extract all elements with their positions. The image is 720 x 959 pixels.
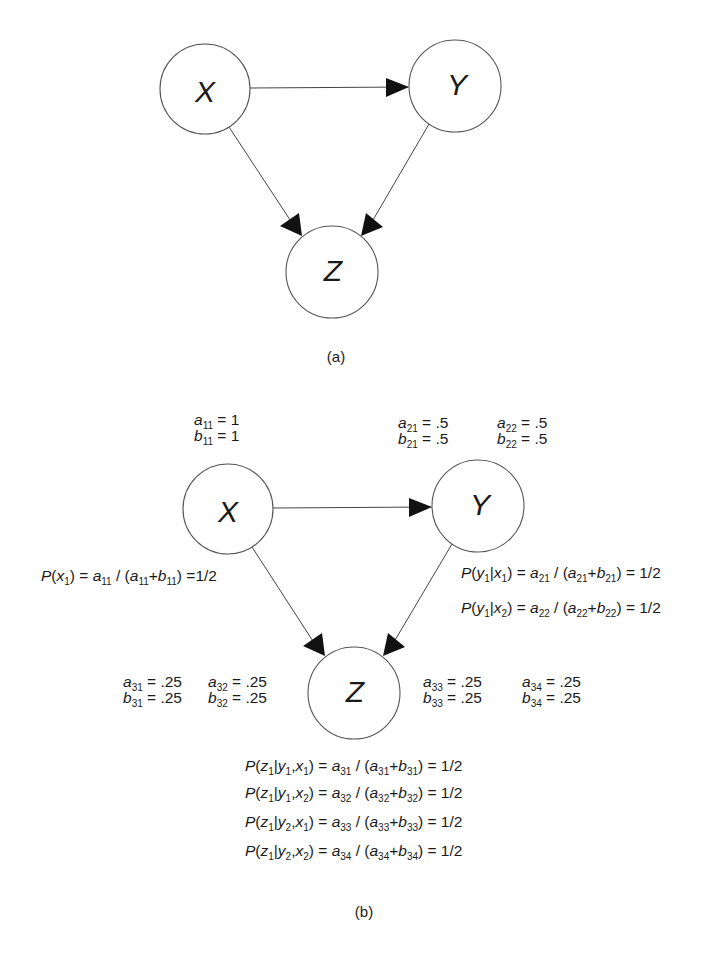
node-z-label: Z xyxy=(323,254,344,287)
param-b34: b34 = .25 xyxy=(522,690,581,706)
arrowhead-icon xyxy=(409,498,432,517)
param-a11: a11 = 1 xyxy=(194,412,239,428)
param-b31: b31 = .25 xyxy=(123,690,182,706)
node-y-label: Y xyxy=(447,68,469,101)
param-a32-value: .25 xyxy=(245,673,267,690)
equation-result: = 1/2 xyxy=(428,842,463,859)
equation-p-y1-given-x2: P(y1|x2) = a22 / (a22+b22) = 1/2 xyxy=(461,600,661,616)
equation-p-z1-given-y2-x2: P(z1|y2,x2) = a34 / (a34+b34) = 1/2 xyxy=(245,843,462,859)
edge-x-to-y xyxy=(250,87,408,88)
equation-result: = 1/2 xyxy=(626,599,661,616)
caption-a: (a) xyxy=(327,348,345,365)
param-b21-value: .5 xyxy=(435,430,448,447)
node-x-label: X xyxy=(194,75,216,108)
param-b21: b21 = .5 xyxy=(398,431,448,447)
edge-y-to-z xyxy=(388,544,452,652)
arrowhead-icon xyxy=(386,78,409,97)
equation-p-x1-result: =1/2 xyxy=(186,567,217,584)
param-a22-value: .5 xyxy=(534,414,547,431)
edge-y-to-z xyxy=(366,124,429,232)
equation-p-z1-given-y1-x1: P(z1|y1,x1) = a31 / (a31+b31) = 1/2 xyxy=(245,758,462,774)
equation-result: = 1/2 xyxy=(428,784,463,801)
param-b32: b32 = .25 xyxy=(208,690,267,706)
equation-p-z1-given-y1-x2: P(z1|y1,x2) = a32 / (a32+b32) = 1/2 xyxy=(245,785,462,801)
equation-p-y1-given-x1: P(y1|x1) = a21 / (a21+b21) = 1/2 xyxy=(461,565,661,581)
caption-b: (b) xyxy=(355,903,373,920)
node-x-label: X xyxy=(217,495,239,528)
equation-p-x1: P(x1) = a11 / (a11+b11) =1/2 xyxy=(41,568,217,584)
equation-result: = 1/2 xyxy=(626,564,661,581)
edge-x-to-z xyxy=(252,547,320,652)
param-a32: a32 = .25 xyxy=(208,674,267,690)
param-a33: a33 = .25 xyxy=(423,674,482,690)
param-b31-value: .25 xyxy=(160,689,182,706)
param-b22-value: .5 xyxy=(534,430,547,447)
param-b34-value: .25 xyxy=(559,689,581,706)
param-b33-value: .25 xyxy=(460,689,482,706)
arrowhead-icon xyxy=(383,633,405,656)
node-z-label: Z xyxy=(345,675,366,708)
param-a31-value: .25 xyxy=(160,673,182,690)
param-a31: a31 = .25 xyxy=(123,674,182,690)
arrowhead-icon xyxy=(303,633,325,656)
node-y-label: Y xyxy=(470,488,492,521)
param-b32-value: .25 xyxy=(245,689,267,706)
param-a21: a21 = .5 xyxy=(398,415,448,431)
param-b33: b33 = .25 xyxy=(423,690,482,706)
param-a33-value: .25 xyxy=(460,673,482,690)
edge-x-to-y xyxy=(273,507,431,508)
arrowhead-icon xyxy=(280,213,302,236)
equation-result: = 1/2 xyxy=(428,813,463,830)
param-a11-value: 1 xyxy=(231,411,240,428)
param-b22: b22 = .5 xyxy=(497,431,547,447)
param-a34-value: .25 xyxy=(559,673,581,690)
panel-a: X Y Z (a) xyxy=(160,40,501,365)
edge-x-to-z xyxy=(229,127,298,232)
equation-result: = 1/2 xyxy=(428,757,463,774)
param-a22: a22 = .5 xyxy=(497,415,547,431)
equation-p-z1-given-y2-x1: P(z1|y2,x1) = a33 / (a33+b33) = 1/2 xyxy=(245,814,462,830)
param-b11-value: 1 xyxy=(231,427,240,444)
param-a21-value: .5 xyxy=(435,414,448,431)
param-a34: a34 = .25 xyxy=(522,674,581,690)
arrowhead-icon xyxy=(361,213,383,236)
param-b11: b11 = 1 xyxy=(194,428,239,444)
